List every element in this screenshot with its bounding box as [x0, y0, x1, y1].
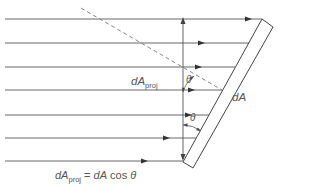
equation-lhs-main: dA [55, 169, 68, 181]
dA-proj-sub: proj [145, 81, 158, 90]
arrow-head-icon [183, 123, 188, 126]
theta-label-lower: θ [190, 113, 195, 123]
equation-rhs-cos: cos [107, 169, 130, 181]
surface-element-slab [183, 19, 273, 168]
theta-label-upper: θ [186, 75, 191, 85]
arrow-right-head-icon [188, 87, 195, 92]
arrow-right-head-icon [141, 158, 148, 163]
equation-equals: = [81, 169, 94, 181]
equation-rhs-theta: θ [130, 169, 136, 181]
dA-label: dA [232, 92, 246, 104]
arrow-right-head-icon [198, 40, 205, 45]
arrow-right-head-icon [245, 16, 252, 21]
arrow-right-head-icon [163, 135, 170, 140]
equation-lhs-sub: proj [68, 175, 81, 184]
arrow-up-head-icon [181, 17, 186, 24]
dA-proj-main: dA [131, 75, 145, 87]
equation-rhs-dA: dA [94, 169, 107, 181]
equation: dAproj = dA cos θ [55, 170, 136, 184]
dA-proj-label: dAproj [131, 76, 158, 90]
arrow-right-head-icon [195, 64, 202, 69]
